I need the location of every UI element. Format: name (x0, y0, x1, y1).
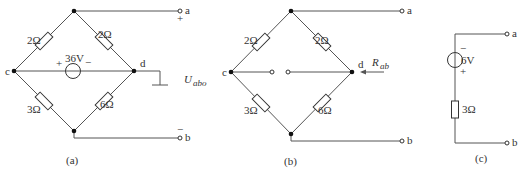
open-terminal-right (286, 70, 290, 74)
node-c-b (229, 70, 234, 75)
label-r-sub: ab (380, 61, 390, 71)
node-d (132, 69, 137, 74)
minus-sign: − (85, 56, 91, 68)
label-r: R (371, 56, 379, 68)
label-b-6ohm: 6Ω (318, 104, 332, 116)
plus-sign: + (56, 57, 62, 69)
label-b-b: b (407, 134, 413, 146)
label-b-a: a (407, 4, 412, 16)
label-d: d (140, 57, 146, 69)
label-c: c (5, 65, 10, 77)
node-d-b (350, 70, 355, 75)
open-terminal-left (270, 70, 274, 74)
label-b-d: d (358, 58, 364, 70)
label-b-3ohm: 3Ω (244, 104, 258, 116)
label-2ohm-tr: 2Ω (98, 28, 112, 40)
label-3ohm: 3Ω (27, 103, 41, 115)
node-top (72, 9, 77, 14)
node-bottom-b (289, 132, 294, 137)
label-b-2ohm-tl: 2Ω (244, 34, 258, 46)
caption-c: (c) (475, 152, 488, 165)
label-u-sub: abo (193, 78, 207, 88)
caption-b: (b) (284, 155, 297, 168)
caption-a: (a) (66, 154, 79, 167)
node-c (12, 69, 17, 74)
label-u: U (184, 73, 193, 85)
label-2ohm-tl: 2Ω (27, 34, 41, 46)
figure-b: 2Ω 2Ω 3Ω 6Ω c d a b R ab (b) (222, 4, 413, 168)
terminal-b (178, 136, 182, 140)
node-top-b (289, 9, 294, 14)
source-minus: − (460, 42, 466, 54)
terminal-b-c (505, 141, 509, 145)
circuit-diagram: 2Ω 2Ω 3Ω 6Ω 36V + − c d a b + − U abo (a… (0, 0, 522, 173)
label-b-c: c (222, 66, 227, 78)
label-c-a: a (512, 27, 517, 39)
terminal-a-sign: + (177, 12, 183, 24)
label-c-3ohm: 3Ω (462, 103, 476, 115)
resistor-c (452, 101, 459, 118)
terminal-b-b (400, 139, 404, 143)
label-6ohm: 6Ω (100, 98, 114, 110)
terminal-b-sign: − (177, 123, 183, 135)
label-a: a (185, 4, 190, 16)
label-b: b (185, 131, 191, 143)
label-c-b: b (512, 136, 518, 148)
terminal-a-c (505, 32, 509, 36)
terminal-a-b (400, 9, 404, 13)
figure-c: 6V − + 3Ω a b (c) (448, 27, 519, 165)
node-bottom (72, 129, 77, 134)
label-36v: 36V (65, 52, 84, 64)
source-plus: + (460, 65, 466, 77)
label-b-2ohm-tr: 2Ω (315, 34, 329, 46)
figure-a: 2Ω 2Ω 3Ω 6Ω 36V + − c d a b + − U abo (a… (5, 4, 207, 167)
